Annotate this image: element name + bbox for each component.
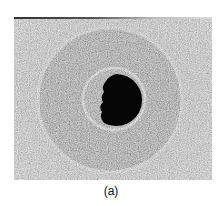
figure-label: (a)	[0, 184, 222, 198]
micrograph	[14, 17, 212, 180]
micrograph-texture	[14, 17, 212, 180]
top-border-line	[14, 17, 212, 19]
